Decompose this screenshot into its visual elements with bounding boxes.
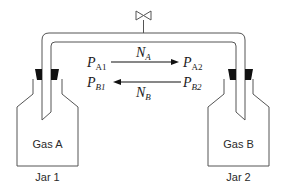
- flux-arrow-b: [113, 79, 181, 85]
- stopper-right-icon: [228, 69, 236, 80]
- flux-b-label: NB: [135, 85, 151, 102]
- stopper-left-icon: [35, 69, 42, 80]
- valve-icon[interactable]: [136, 11, 151, 33]
- pressure-b2-label: PB2: [182, 75, 202, 92]
- flux-a-label: NA: [135, 45, 151, 62]
- jar-2: [208, 69, 269, 166]
- pressure-b1-label: PB1: [86, 75, 106, 92]
- gas-a-label: Gas A: [33, 138, 64, 150]
- diffusion-diagram: PA1 PA2 PB1 PB2 NA NB Gas A Jar 1 Gas B …: [0, 0, 286, 195]
- jar-2-label: Jar 2: [226, 171, 250, 183]
- jar-1-label: Jar 1: [35, 171, 59, 183]
- pressure-a1-label: PA1: [86, 55, 107, 72]
- gas-b-label: Gas B: [223, 138, 254, 150]
- pressure-a2-label: PA2: [182, 55, 203, 72]
- jar-1: [17, 69, 78, 166]
